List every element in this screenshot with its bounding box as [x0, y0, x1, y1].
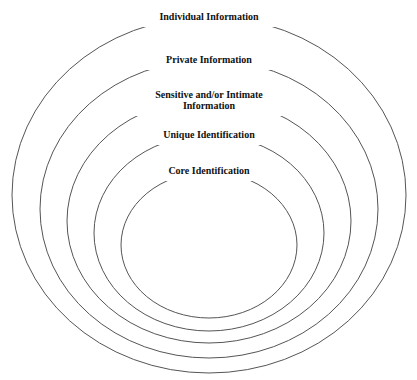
- layer-label-text: Individual Information: [159, 11, 259, 22]
- label-sensitive-intimate-information: Sensitive and/or IntimateInformation: [131, 88, 287, 116]
- ring-labels: Individual InformationPrivate Informatio…: [131, 10, 287, 181]
- label-core-identification: Core Identification: [149, 164, 269, 181]
- layer-label-text: Information: [183, 100, 236, 111]
- label-individual-information: Individual Information: [137, 10, 281, 27]
- ring-core-identification: [121, 172, 297, 318]
- layer-label-text: Unique Identification: [163, 129, 255, 140]
- layer-label-text: Core Identification: [168, 165, 250, 176]
- ellipse-rings: [12, 17, 406, 373]
- privacy-layers-diagram: Individual InformationPrivate Informatio…: [0, 0, 417, 380]
- layer-label-text: Sensitive and/or Intimate: [155, 89, 263, 100]
- ring-individual-information: [12, 17, 406, 373]
- label-private-information: Private Information: [146, 53, 272, 70]
- layer-label-text: Private Information: [166, 54, 252, 65]
- label-unique-identification: Unique Identification: [141, 128, 277, 145]
